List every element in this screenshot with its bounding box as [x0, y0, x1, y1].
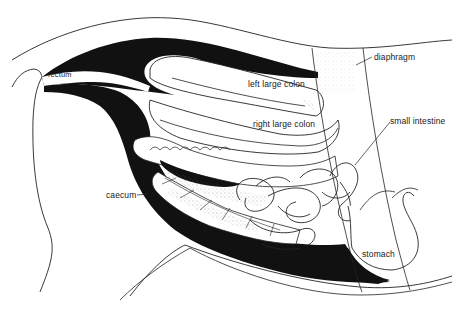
hindquarter-outline: [12, 69, 52, 292]
label-rectum: rectum: [48, 71, 72, 79]
label-small-intestine: small intestine: [390, 117, 445, 126]
label-right-large-colon: right large colon: [253, 120, 315, 129]
small-intestine-leader: [355, 122, 390, 165]
label-diaphragm: diaphragm: [374, 53, 415, 62]
anatomy-diagram: rectum left large colon right large colo…: [0, 0, 455, 320]
label-caecum: caecum: [106, 191, 136, 200]
label-stomach: stomach: [362, 250, 395, 259]
diagram-drawing: [0, 0, 455, 320]
label-left-large-colon: left large colon: [248, 80, 305, 89]
